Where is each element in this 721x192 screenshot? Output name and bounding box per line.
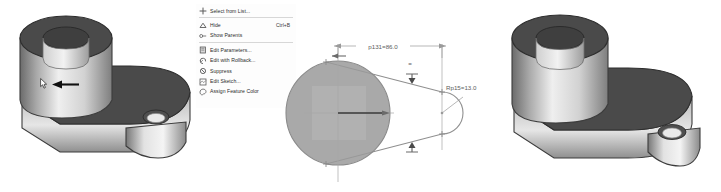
menu-item-assign-feature-color[interactable]: Assign Feature Color — [196, 87, 296, 97]
equal-constraint-symbol: = — [408, 60, 412, 67]
feature-context-menu[interactable]: Select from List... Hide Ctrl+B Show Par… — [196, 4, 296, 108]
length-dimension[interactable]: p131=86.0 — [334, 40, 446, 58]
menu-label: Edit with Rollback... — [210, 58, 256, 63]
menu-label: Edit Parameters... — [210, 48, 252, 53]
context-menu-view: Select from List... Hide Ctrl+B Show Par… — [196, 4, 296, 108]
hide-icon — [198, 22, 207, 30]
radius-dimension-label: Rp15=13.0 — [446, 84, 477, 91]
menu-item-select-from-list[interactable]: Select from List... — [196, 6, 296, 16]
small-hole-bore — [663, 128, 682, 138]
select-from-list-icon — [198, 7, 207, 15]
assign-feature-color-icon — [198, 88, 207, 96]
radius-dimension[interactable]: Rp15=13.0 — [441, 84, 477, 114]
sketch-view: p131=86.0 Rp15=13.0 = — [296, 0, 506, 192]
edit-sketch-icon — [198, 78, 207, 86]
suppress-icon — [198, 67, 207, 75]
menu-item-edit-sketch[interactable]: Edit Sketch... — [196, 76, 296, 86]
crank-profile-sketch-svg: p131=86.0 Rp15=13.0 = — [296, 0, 506, 192]
right-model-view — [500, 0, 721, 192]
menu-label: Show Parents — [210, 33, 242, 38]
large-bore-mouth — [536, 27, 584, 50]
menu-item-hide[interactable]: Hide Ctrl+B — [196, 20, 296, 30]
menu-label: Edit Sketch... — [210, 79, 241, 84]
menu-accelerator: Ctrl+B — [276, 23, 290, 28]
mouse-cursor — [40, 78, 49, 89]
right-model-svg — [500, 0, 721, 192]
crank-arm-solid — [512, 15, 700, 166]
menu-label: Suppress — [210, 69, 232, 74]
large-bore-mouth — [43, 27, 89, 49]
callout-arrow — [50, 80, 80, 89]
dim-arrow-right — [439, 44, 446, 49]
menu-label: Assign Feature Color — [210, 89, 259, 94]
tangent-marker-bottom — [406, 142, 418, 152]
show-parents-icon — [198, 32, 207, 40]
dim-arrow-left — [334, 44, 341, 49]
radius-leader — [442, 97, 463, 113]
small-boss-side — [126, 122, 186, 158]
radius-center-dot — [441, 112, 444, 115]
edit-parameters-icon — [198, 46, 207, 54]
menu-item-suppress[interactable]: Suppress — [196, 66, 296, 76]
left-model-view — [0, 0, 200, 192]
left-model-svg — [0, 0, 200, 192]
menu-label: Hide — [210, 23, 221, 28]
menu-label: Select from List... — [210, 9, 250, 14]
tangent-marker-top — [406, 74, 418, 84]
menu-item-edit-parameters[interactable]: Edit Parameters... — [196, 45, 296, 55]
edit-rollback-icon — [198, 57, 207, 65]
menu-item-show-parents[interactable]: Show Parents — [196, 31, 296, 41]
small-hole-bore — [147, 113, 165, 122]
length-dimension-label: p131=86.0 — [368, 43, 398, 50]
menu-item-edit-with-rollback[interactable]: Edit with Rollback... — [196, 56, 296, 66]
drag-handle-arrow[interactable] — [332, 54, 346, 59]
